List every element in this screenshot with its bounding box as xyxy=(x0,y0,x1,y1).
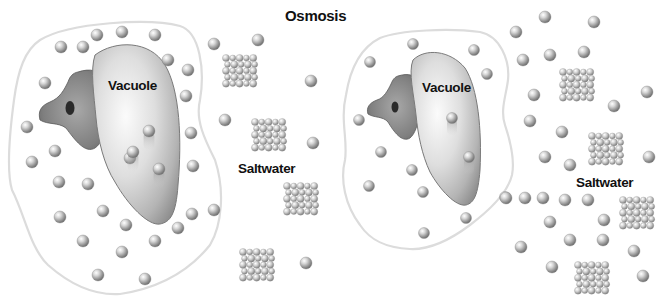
water-molecule xyxy=(39,77,51,89)
water-molecule xyxy=(376,147,387,158)
ion xyxy=(596,281,603,288)
ion xyxy=(581,88,588,95)
ion xyxy=(239,274,246,281)
water-molecule xyxy=(162,54,174,66)
ion xyxy=(267,125,273,131)
ion xyxy=(604,268,610,274)
nucleolus xyxy=(66,101,75,115)
vacuole-label: Vacuole xyxy=(108,78,158,93)
ion xyxy=(255,268,261,274)
ion xyxy=(272,132,278,138)
ion xyxy=(595,262,601,268)
ion xyxy=(588,261,595,268)
ion xyxy=(222,80,229,87)
ion xyxy=(230,55,236,61)
water-molecule xyxy=(208,204,220,216)
ion xyxy=(261,268,268,275)
water-molecule xyxy=(139,273,151,285)
ion xyxy=(305,189,312,196)
salt-crystal xyxy=(251,118,286,151)
water-molecule xyxy=(539,151,551,163)
ion xyxy=(244,61,251,68)
ion xyxy=(292,189,299,196)
ion xyxy=(273,125,280,132)
ion xyxy=(616,132,623,139)
ion xyxy=(573,94,580,101)
water-molecule xyxy=(564,234,576,246)
ion xyxy=(248,255,255,262)
ion xyxy=(567,82,573,88)
water-molecule xyxy=(116,26,128,38)
ion xyxy=(597,139,604,146)
ion xyxy=(640,210,646,216)
ion xyxy=(231,61,238,68)
ion xyxy=(251,144,258,151)
ion xyxy=(283,195,290,202)
water-molecule xyxy=(564,159,576,171)
water-molecule xyxy=(643,151,655,163)
ion xyxy=(618,152,624,158)
ion xyxy=(272,119,278,125)
ion xyxy=(590,281,596,287)
ion xyxy=(292,202,299,209)
ion xyxy=(622,216,628,222)
water-molecule xyxy=(120,219,132,231)
ion xyxy=(604,139,610,145)
ion xyxy=(267,274,274,281)
water-molecule xyxy=(407,165,418,176)
ion xyxy=(251,118,258,125)
water-molecule xyxy=(153,163,165,175)
ion xyxy=(618,139,624,145)
ion xyxy=(281,138,287,144)
salt-crystal xyxy=(239,248,274,281)
water-molecule xyxy=(641,86,653,98)
ion xyxy=(574,261,581,268)
water-molecule xyxy=(91,29,103,41)
ion xyxy=(238,74,244,80)
ion xyxy=(596,133,602,139)
ion xyxy=(239,261,246,268)
ion xyxy=(267,261,274,268)
water-molecule xyxy=(219,114,231,126)
water-molecule xyxy=(354,115,365,126)
vacuole xyxy=(411,52,480,205)
nucleolus xyxy=(392,102,399,113)
ion xyxy=(581,75,588,82)
ion xyxy=(577,281,583,287)
ion xyxy=(311,195,318,202)
ion xyxy=(596,159,602,165)
ion xyxy=(588,132,595,139)
ion xyxy=(259,132,265,138)
ion xyxy=(562,75,568,81)
water-molecule xyxy=(546,261,558,273)
saltwater-label: Saltwater xyxy=(576,175,634,190)
water-molecule xyxy=(556,126,568,138)
ion xyxy=(582,262,588,268)
ion xyxy=(567,69,573,75)
water-molecule xyxy=(528,89,540,101)
ion xyxy=(559,94,566,101)
ion xyxy=(236,67,243,74)
ion xyxy=(236,54,243,61)
ion xyxy=(260,125,267,132)
ion xyxy=(251,131,258,138)
ion xyxy=(259,119,265,125)
ion xyxy=(587,68,594,75)
diagram-title: Osmosis xyxy=(285,7,346,24)
ion xyxy=(559,81,566,88)
ion xyxy=(649,216,655,222)
water-molecule xyxy=(97,205,109,217)
ion xyxy=(573,68,580,75)
ion xyxy=(602,261,609,268)
water-molecule xyxy=(116,246,128,258)
ion xyxy=(588,158,595,165)
water-molecule xyxy=(77,235,89,247)
ion xyxy=(265,118,272,125)
water-molecule xyxy=(77,41,89,53)
water-molecule xyxy=(26,156,38,168)
ion xyxy=(230,68,236,74)
ion xyxy=(261,255,268,262)
ion xyxy=(591,152,597,158)
ion xyxy=(297,182,304,189)
water-molecule xyxy=(408,39,419,50)
